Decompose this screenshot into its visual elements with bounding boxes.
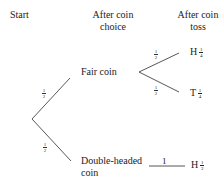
- prob-double-to-h: 1: [162, 155, 167, 167]
- outcome-double-heads: H12: [191, 159, 204, 171]
- prob-start-to-fair: 1 2: [40, 88, 48, 99]
- outcome-fair-heads: H14: [190, 46, 203, 58]
- node-double-headed-coin: Double-headed coin: [81, 155, 142, 179]
- header-after-coin-choice: After coin choice: [82, 9, 144, 33]
- header-start: Start: [10, 9, 29, 21]
- node-fair-coin: Fair coin: [81, 66, 117, 78]
- prob-fair-to-t: 1 2: [152, 85, 160, 96]
- prob-fair-to-h: 1 2: [152, 49, 160, 60]
- branch-start-to-double: [32, 119, 71, 161]
- prob-start-to-double: 1 2: [41, 142, 49, 153]
- header-after-coin-toss: After coin toss: [173, 9, 222, 33]
- branch-start-to-fair: [32, 78, 70, 119]
- outcome-fair-tails: T14: [190, 87, 202, 99]
